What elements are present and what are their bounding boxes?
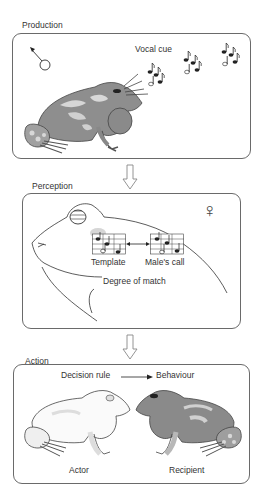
recipient-frog-illustration	[134, 384, 244, 464]
production-label: Production	[22, 20, 63, 30]
perception-label: Perception	[32, 181, 73, 191]
right-arrow-icon	[121, 374, 153, 380]
down-arrow-icon	[122, 164, 138, 190]
degree-of-match-label: Degree of match	[103, 276, 166, 286]
music-notes-icon	[146, 60, 166, 88]
recipient-label: Recipient	[169, 465, 204, 475]
male-symbol-icon	[28, 44, 52, 72]
music-notes-icon	[218, 40, 242, 68]
actor-label: Actor	[69, 465, 89, 475]
template-label: Template	[91, 257, 126, 267]
males-call-staff-icon	[150, 232, 184, 256]
down-arrow-icon	[122, 334, 138, 360]
actor-frog-illustration	[22, 384, 132, 464]
music-notes-icon	[180, 48, 204, 76]
behaviour-label: Behaviour	[156, 370, 194, 380]
vocal-cue-label: Vocal cue	[135, 44, 172, 54]
males-call-label: Male's call	[145, 257, 184, 267]
template-staff-icon	[92, 232, 126, 256]
decision-rule-label: Decision rule	[61, 370, 110, 380]
double-arrow-icon	[126, 240, 150, 248]
female-symbol-icon: ♀	[202, 199, 217, 222]
